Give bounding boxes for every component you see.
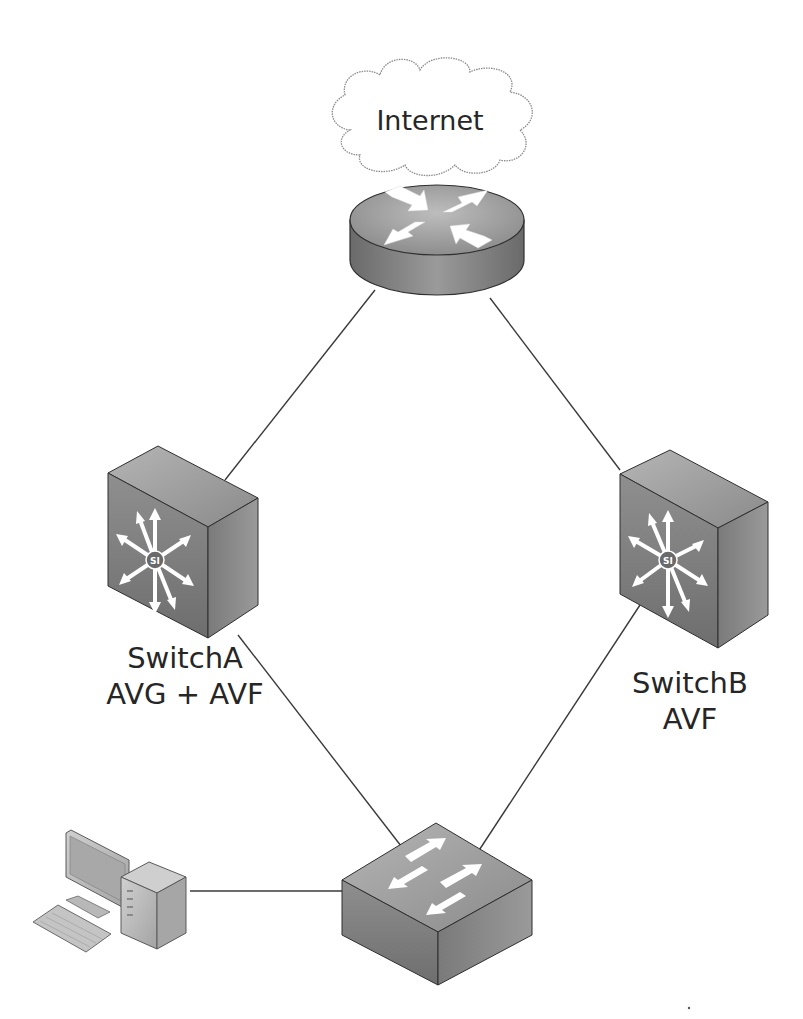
switchb-label: SwitchB AVF — [610, 665, 770, 737]
access-switch-icon — [342, 823, 532, 985]
svg-text:SI: SI — [663, 556, 673, 566]
switcha-name: SwitchA — [90, 640, 280, 676]
switchb-icon: SI — [620, 450, 768, 648]
link-router-switcha — [225, 290, 375, 480]
network-diagram: SI SI — [0, 0, 803, 1019]
switcha-role: AVG + AVF — [90, 676, 280, 712]
internet-label-text: Internet — [360, 103, 500, 139]
router-icon — [350, 185, 524, 295]
svg-text:SI: SI — [150, 556, 160, 566]
internet-label: Internet — [360, 103, 500, 139]
switchb-role: AVF — [610, 701, 770, 737]
workstation-icon — [33, 830, 186, 952]
stray-dot — [688, 1007, 690, 1009]
switchb-name: SwitchB — [610, 665, 770, 701]
switcha-label: SwitchA AVG + AVF — [90, 640, 280, 712]
switcha-icon: SI — [108, 446, 258, 638]
link-router-switchb — [490, 298, 620, 470]
